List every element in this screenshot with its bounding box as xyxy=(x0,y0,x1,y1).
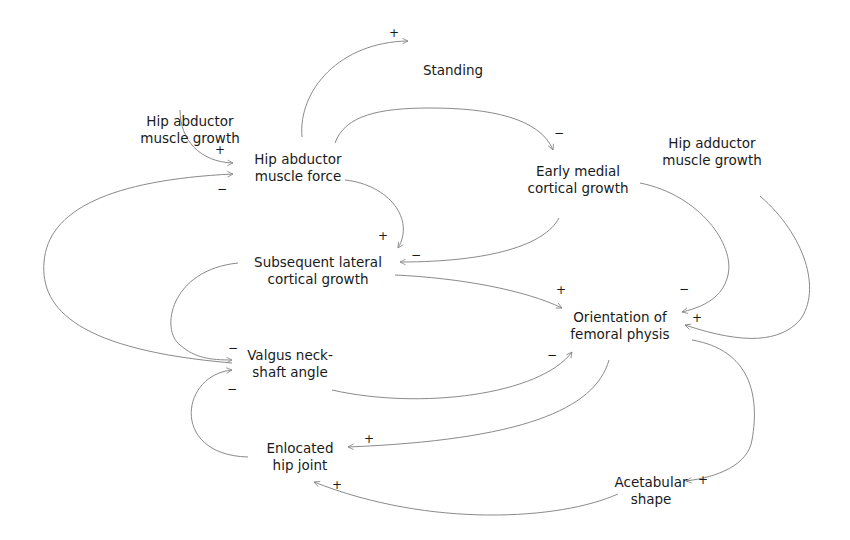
node-enlocated-hip-joint: Enlocated hip joint xyxy=(267,440,334,474)
edge-layer xyxy=(0,0,850,540)
edge-force-to-early-medial xyxy=(335,108,553,150)
node-line-1: Hip abductor xyxy=(140,113,239,130)
sign-early-medial-orientation: − xyxy=(679,283,689,295)
node-valgus-neck-shaft-angle: Valgus neck- shaft angle xyxy=(247,347,333,381)
edge-adductor-growth-to-orientation xyxy=(685,196,810,338)
node-line-1: Early medial xyxy=(528,163,629,180)
node-orientation-of-femoral-physis: Orientation of femoral physis xyxy=(570,309,669,343)
node-line-1: Hip abductor xyxy=(254,151,341,168)
edge-orientation-to-enlocated xyxy=(348,360,609,447)
node-line-1: Subsequent lateral xyxy=(254,254,382,271)
sign-force-early-medial: − xyxy=(554,127,564,139)
node-line-1: Enlocated xyxy=(267,440,334,457)
sign-force-standing: + xyxy=(389,27,399,39)
node-subsequent-lateral-cortical-growth: Subsequent lateral cortical growth xyxy=(254,254,382,288)
sign-acetabular-enlocated: + xyxy=(332,479,342,491)
sign-enlocated-valgus: − xyxy=(227,383,237,395)
node-line-2: shape xyxy=(615,491,688,508)
causal-loop-diagram: Standing Hip abductor muscle growth Hip … xyxy=(0,0,850,540)
node-line-2: cortical growth xyxy=(254,271,382,288)
node-hip-adductor-growth: Hip adductor muscle growth xyxy=(662,135,761,169)
sign-abductor-growth-force: + xyxy=(215,144,225,156)
node-line-2: femoral physis xyxy=(570,326,669,343)
sign-orientation-enlocated: + xyxy=(364,433,374,445)
node-standing-label: Standing xyxy=(423,62,483,79)
sign-valgus-orientation: − xyxy=(547,349,557,361)
node-line-2: hip joint xyxy=(267,457,334,474)
sign-orientation-acetabular: + xyxy=(698,474,708,486)
edge-force-to-standing xyxy=(302,41,408,137)
node-early-medial-cortical-growth: Early medial cortical growth xyxy=(528,163,629,197)
sign-early-medial-subsequent: − xyxy=(411,249,421,261)
node-hip-abductor-growth: Hip abductor muscle growth xyxy=(140,113,239,147)
node-line-1: Acetabular xyxy=(615,474,688,491)
node-line-1: Orientation of xyxy=(570,309,669,326)
sign-subsequent-valgus: − xyxy=(228,342,238,354)
sign-force-subsequent: + xyxy=(378,230,388,242)
node-hip-abductor-force: Hip abductor muscle force xyxy=(254,151,341,185)
edge-valgus-to-force xyxy=(44,174,233,363)
node-line-2: cortical growth xyxy=(528,180,629,197)
node-line-2: muscle growth xyxy=(662,152,761,169)
node-line-1: Valgus neck- xyxy=(247,347,333,364)
sign-subsequent-orientation: + xyxy=(556,284,566,296)
edge-enlocated-to-valgus xyxy=(191,370,248,457)
edge-early-medial-to-subsequent xyxy=(400,218,559,262)
edge-valgus-to-orientation xyxy=(332,352,572,399)
node-standing: Standing xyxy=(423,62,483,79)
edge-force-to-subsequent xyxy=(345,180,403,248)
sign-adductor-orientation: + xyxy=(692,312,702,324)
node-line-2: shaft angle xyxy=(247,364,333,381)
node-acetabular-shape: Acetabular shape xyxy=(615,474,688,508)
edge-orientation-to-acetabular xyxy=(686,340,754,481)
node-line-1: Hip adductor xyxy=(662,135,761,152)
sign-valgus-force: − xyxy=(217,183,227,195)
edge-acetabular-to-enlocated xyxy=(314,482,618,515)
edge-subsequent-to-orientation xyxy=(395,275,562,308)
node-line-2: muscle force xyxy=(254,168,341,185)
